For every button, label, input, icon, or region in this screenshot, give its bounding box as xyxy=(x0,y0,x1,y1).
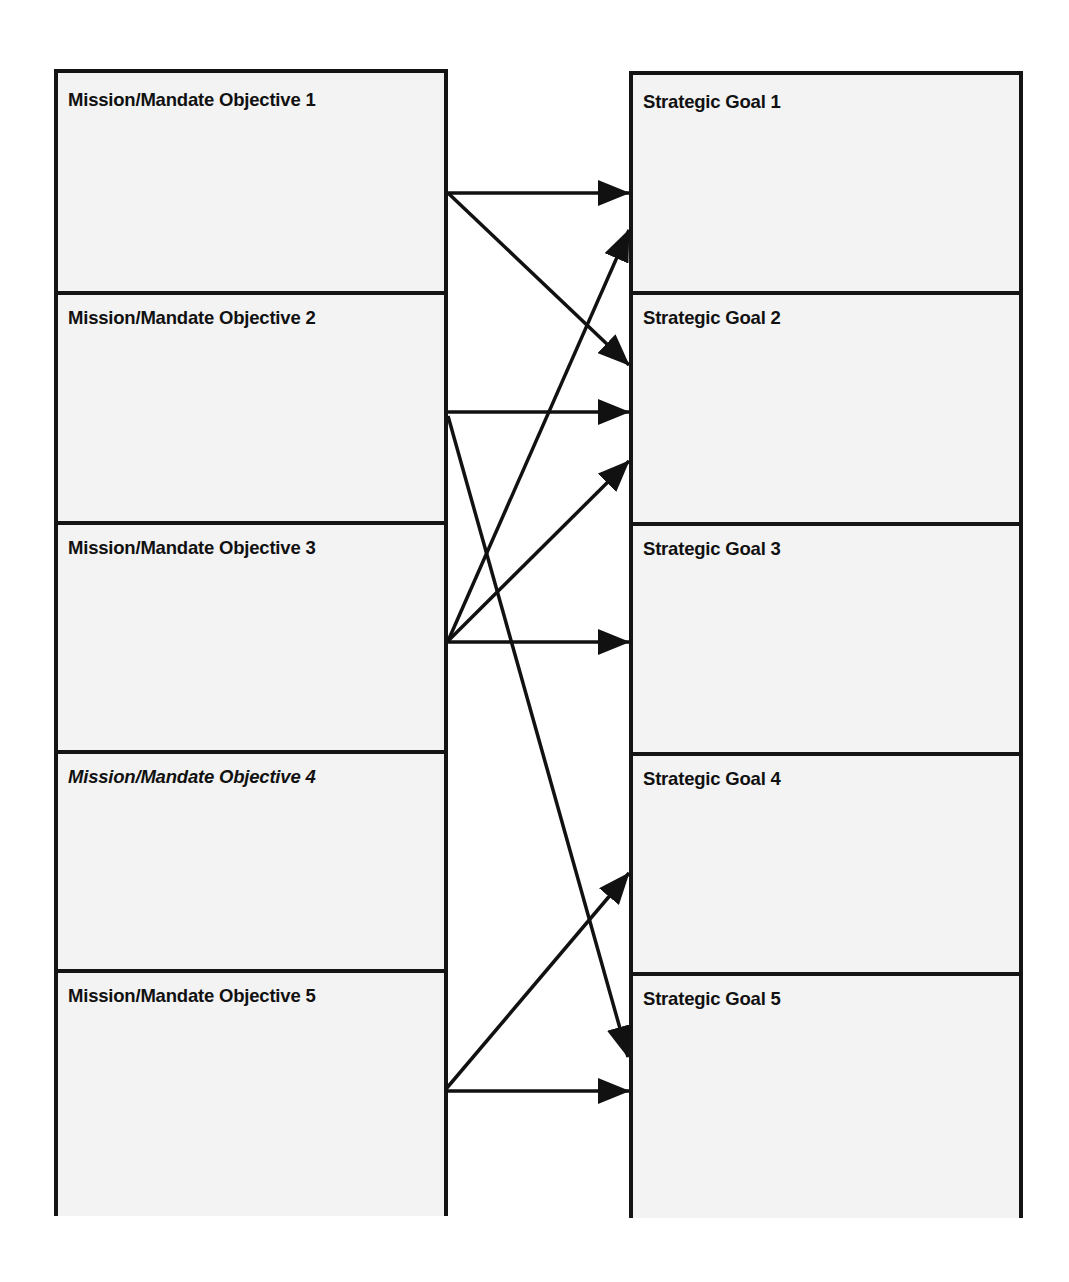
strategic-goals-column: Strategic Goal 1 Strategic Goal 2 Strate… xyxy=(629,71,1023,1218)
objective-label-2: Mission/Mandate Objective 2 xyxy=(68,307,316,329)
arrow-obj5-goal4 xyxy=(446,873,629,1089)
goal-box-1: Strategic Goal 1 xyxy=(633,75,1019,295)
arrow-obj1-goal2 xyxy=(448,193,629,365)
goal-label-3: Strategic Goal 3 xyxy=(643,538,781,560)
objective-label-5: Mission/Mandate Objective 5 xyxy=(68,985,316,1007)
objective-box-4: Mission/Mandate Objective 4 xyxy=(58,750,444,970)
goal-label-2: Strategic Goal 2 xyxy=(643,307,781,329)
goal-label-5: Strategic Goal 5 xyxy=(643,988,781,1010)
objective-box-5: Mission/Mandate Objective 5 xyxy=(58,969,444,1216)
goal-box-3: Strategic Goal 3 xyxy=(633,522,1019,754)
objective-box-2: Mission/Mandate Objective 2 xyxy=(58,291,444,523)
arrow-obj2-goal5 xyxy=(448,416,628,1057)
arrow-obj3-goal2 xyxy=(448,461,629,641)
arrow-obj3-goal1 xyxy=(448,230,629,641)
objective-label-3: Mission/Mandate Objective 3 xyxy=(68,537,316,559)
goal-box-4: Strategic Goal 4 xyxy=(633,752,1019,974)
mission-objectives-column: Mission/Mandate Objective 1 Mission/Mand… xyxy=(54,69,448,1216)
objective-label-4: Mission/Mandate Objective 4 xyxy=(68,766,316,788)
goal-box-5: Strategic Goal 5 xyxy=(633,972,1019,1218)
goal-label-4: Strategic Goal 4 xyxy=(643,768,781,790)
objective-box-1: Mission/Mandate Objective 1 xyxy=(58,73,444,293)
objective-box-3: Mission/Mandate Objective 3 xyxy=(58,521,444,752)
goal-label-1: Strategic Goal 1 xyxy=(643,91,781,113)
objective-label-1: Mission/Mandate Objective 1 xyxy=(68,89,316,111)
goal-box-2: Strategic Goal 2 xyxy=(633,291,1019,524)
